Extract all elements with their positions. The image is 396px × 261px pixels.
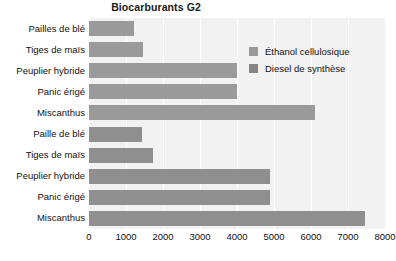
bar-diesel-de-synthese [89,211,365,226]
legend-item: Éthanol cellulosique [249,44,387,59]
legend-swatch-icon [249,47,258,56]
legend-label: Éthanol cellulosique [265,46,350,57]
bar-row [89,166,385,187]
category-label: Peuplier hybride [1,65,85,76]
bar-ethanol-cellulosique [89,63,237,78]
bar-row [89,187,385,208]
category-label: Tiges de maïs [1,149,85,160]
x-axis-tick-label: 8000 [374,231,395,242]
x-axis-tick-label: 2000 [152,231,173,242]
bar-diesel-de-synthese [89,127,142,142]
category-label: Panic érigé [1,191,85,202]
bar-row [89,145,385,166]
bar-ethanol-cellulosique [89,84,237,99]
bar-diesel-de-synthese [89,169,270,184]
bar-row [89,208,385,229]
x-axis-tick-label: 0 [86,231,91,242]
chart-legend: Éthanol cellulosiqueDiesel de synthèse [249,44,387,78]
x-axis-tick-label: 3000 [189,231,210,242]
bar-ethanol-cellulosique [89,105,315,120]
bar-ethanol-cellulosique [89,21,134,36]
category-label: Peuplier hybride [1,170,85,181]
category-label: Tiges de maïs [1,44,85,55]
legend-swatch-icon [249,64,258,73]
x-axis-tick-label: 5000 [263,231,284,242]
category-label: Miscanthus [1,107,85,118]
legend-label: Diesel de synthèse [265,63,345,74]
legend-item: Diesel de synthèse [249,61,387,76]
category-label: Panic érigé [1,86,85,97]
chart-title: Biocarburants G2 [86,1,226,13]
bar-row [89,18,385,39]
bar-row [89,102,385,123]
category-label: Paille de blé [1,128,85,139]
x-axis-tick-label: 1000 [115,231,136,242]
bar-diesel-de-synthese [89,148,153,163]
category-axis-labels: Pailles de bléTiges de maïsPeuplier hybr… [0,18,85,229]
x-axis-tick-label: 4000 [226,231,247,242]
bar-diesel-de-synthese [89,190,270,205]
category-label: Miscanthus [1,212,85,223]
bar-row [89,81,385,102]
x-axis-tick-label: 6000 [300,231,321,242]
bar-row [89,124,385,145]
category-label: Pailles de blé [1,23,85,34]
bar-ethanol-cellulosique [89,42,143,57]
x-axis-tick-label: 7000 [337,231,358,242]
x-axis: 010002000300040005000600070008000 [89,229,385,245]
